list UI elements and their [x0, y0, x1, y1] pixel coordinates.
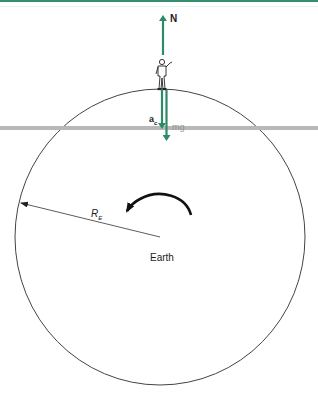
earth-rotation-diagram: N ac mg RE Earth: [0, 0, 318, 401]
top-border: [0, 0, 318, 2]
diagram-canvas: [0, 0, 318, 401]
radius-subscript: E: [98, 215, 102, 221]
centripetal-accel-label: ac: [149, 114, 157, 126]
earth-label: Earth: [150, 252, 174, 263]
normal-force-label: N: [170, 13, 177, 24]
person-icon: [156, 59, 172, 89]
horizontal-band: [0, 126, 318, 130]
accel-subscript: c: [154, 120, 157, 126]
rotation-arrow-icon: [127, 194, 191, 215]
weight-label: mg: [172, 122, 185, 132]
radius-label: RE: [91, 208, 102, 221]
top-rule: [0, 6, 318, 7]
